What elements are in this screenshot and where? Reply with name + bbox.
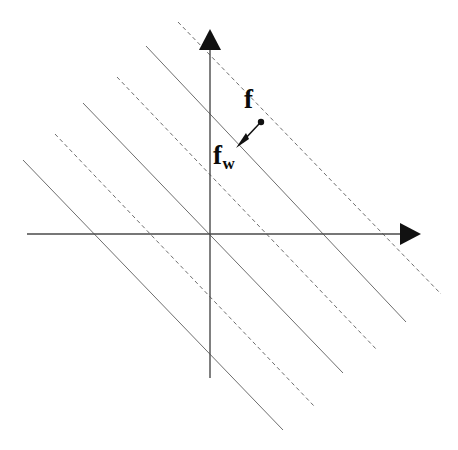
projection-arrowhead-icon	[236, 133, 249, 148]
projection-annotation-group	[236, 119, 264, 148]
hyperplane-solid-1	[146, 46, 406, 322]
figure-canvas: f fw	[0, 0, 458, 450]
hyperplane-dashed-2	[117, 77, 377, 350]
hyperplane-solid-3	[23, 160, 283, 430]
diagram-svg	[0, 0, 458, 450]
label-f-w: fw	[213, 142, 234, 169]
x-axis-arrowhead-icon	[400, 223, 421, 245]
label-f-w-base: f	[213, 140, 222, 170]
y-axis-arrowhead-icon	[199, 29, 221, 50]
label-f: f	[244, 86, 253, 113]
hyperplane-group	[23, 22, 441, 430]
hyperplane-dashed-3	[55, 134, 314, 406]
axes-group	[27, 29, 421, 378]
label-f-w-subscript: w	[223, 154, 235, 173]
